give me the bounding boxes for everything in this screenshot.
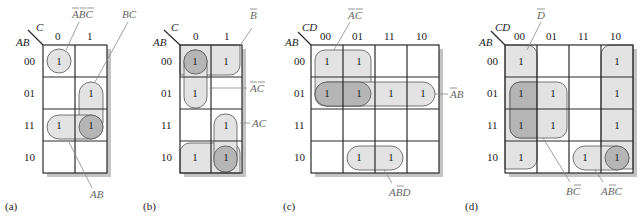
term-a-bar-b: AB bbox=[449, 88, 464, 100]
col-label: 11 bbox=[384, 30, 395, 42]
cell: 1 bbox=[614, 119, 620, 131]
col-label: 01 bbox=[546, 30, 557, 42]
col-var-label: CD bbox=[495, 21, 510, 33]
term-ab: AB bbox=[89, 188, 104, 200]
row-label: 01 bbox=[24, 87, 35, 99]
row-label: 10 bbox=[161, 151, 173, 163]
karnaugh-map-figure: C AB 0 1 00 01 11 10 1 1 1 1 ABC BC AB (… bbox=[0, 0, 640, 217]
col-label: 1 bbox=[87, 30, 93, 42]
row-label: 00 bbox=[487, 55, 499, 67]
cell: 1 bbox=[223, 151, 229, 163]
cell: 1 bbox=[56, 55, 62, 67]
cell: 1 bbox=[88, 87, 94, 99]
term-ac: AC bbox=[251, 117, 267, 129]
col-label: 0 bbox=[55, 30, 61, 42]
row-label: 11 bbox=[487, 119, 498, 131]
row-label: 00 bbox=[294, 55, 306, 67]
cell: 1 bbox=[324, 55, 330, 67]
row-label: 01 bbox=[294, 87, 305, 99]
col-var-label: C bbox=[171, 21, 179, 33]
col-label: 00 bbox=[514, 30, 526, 42]
term-b-bar: B bbox=[250, 9, 257, 21]
cell: 1 bbox=[192, 55, 198, 67]
cell: 1 bbox=[356, 55, 362, 67]
row-label: 11 bbox=[294, 119, 305, 131]
term-ab-bar-c: ABC bbox=[600, 185, 622, 197]
cell: 1 bbox=[356, 151, 362, 163]
cell: 1 bbox=[56, 119, 62, 131]
row-var-label: AB bbox=[478, 36, 493, 48]
cell: 1 bbox=[518, 55, 524, 67]
cell: 1 bbox=[518, 151, 524, 163]
term-bc: BC bbox=[122, 8, 137, 20]
term-bc-bar: BC bbox=[566, 185, 581, 197]
cell: 1 bbox=[88, 119, 94, 131]
cell: 1 bbox=[582, 151, 588, 163]
term-ac-bar: AC bbox=[347, 9, 363, 21]
col-var-label: C bbox=[36, 21, 44, 33]
caption-a: (a) bbox=[5, 200, 18, 213]
row-label: 11 bbox=[24, 119, 35, 131]
col-label: 1 bbox=[224, 30, 230, 42]
term-abc-bar: ABC bbox=[71, 8, 93, 20]
col-label: 10 bbox=[416, 30, 428, 42]
col-label: 00 bbox=[320, 30, 332, 42]
cell: 1 bbox=[388, 151, 394, 163]
corner-diagonal bbox=[298, 32, 311, 45]
row-label: 00 bbox=[24, 55, 36, 67]
row-var-label: AB bbox=[152, 36, 167, 48]
row-label: 11 bbox=[161, 119, 172, 131]
cell: 1 bbox=[192, 87, 198, 99]
cell: 1 bbox=[324, 87, 330, 99]
cell: 1 bbox=[192, 151, 198, 163]
cell: 1 bbox=[223, 55, 229, 67]
row-var-label: AB bbox=[284, 36, 299, 48]
col-label: 11 bbox=[578, 30, 589, 42]
cell: 1 bbox=[223, 119, 229, 131]
cell: 1 bbox=[518, 119, 524, 131]
kmap-d: CD AB 00 01 11 10 00 01 11 10 1 1 1 1 1 … bbox=[465, 9, 637, 213]
term-ab-bar-d: ABD bbox=[388, 186, 410, 198]
kmap-c: CD AB 00 01 11 10 00 01 11 10 1 1 1 1 1 … bbox=[283, 9, 464, 213]
row-label: 10 bbox=[294, 151, 306, 163]
col-label: 01 bbox=[352, 30, 363, 42]
cell: 1 bbox=[614, 55, 620, 67]
caption-d: (d) bbox=[465, 200, 478, 213]
row-label: 10 bbox=[487, 151, 499, 163]
row-label: 01 bbox=[161, 87, 172, 99]
row-label: 01 bbox=[487, 87, 498, 99]
cell: 1 bbox=[550, 87, 556, 99]
caption-c: (c) bbox=[283, 200, 296, 213]
kmap-b: C AB 0 1 00 01 11 10 1 1 1 1 1 1 B AC AC… bbox=[143, 9, 267, 213]
cell: 1 bbox=[388, 87, 394, 99]
term-d-bar: D bbox=[536, 9, 545, 21]
kmap-a: C AB 0 1 00 01 11 10 1 1 1 1 ABC BC AB (… bbox=[5, 8, 137, 213]
caption-b: (b) bbox=[143, 200, 156, 213]
cell: 1 bbox=[614, 87, 620, 99]
term-ac-bar: AC bbox=[249, 82, 265, 94]
leader-dot bbox=[210, 87, 213, 90]
cell: 1 bbox=[614, 151, 620, 163]
cell: 1 bbox=[518, 87, 524, 99]
corner-diagonal bbox=[491, 31, 505, 45]
col-var-label: CD bbox=[302, 21, 317, 33]
cell: 1 bbox=[420, 87, 426, 99]
row-label: 10 bbox=[24, 151, 36, 163]
cell: 1 bbox=[550, 119, 556, 131]
row-var-label: AB bbox=[15, 36, 30, 48]
col-label: 0 bbox=[193, 30, 199, 42]
cell: 1 bbox=[356, 87, 362, 99]
col-label: 10 bbox=[610, 30, 622, 42]
row-label: 00 bbox=[161, 55, 173, 67]
